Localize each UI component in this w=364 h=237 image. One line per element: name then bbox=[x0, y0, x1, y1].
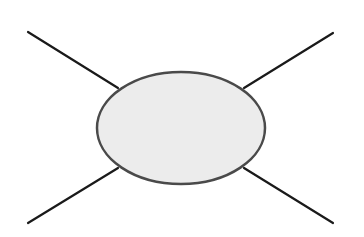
central-node-ellipse bbox=[97, 72, 265, 184]
connector-line-bottom-right bbox=[244, 168, 333, 223]
connector-line-bottom-left bbox=[28, 168, 118, 223]
spider-diagram bbox=[0, 0, 364, 237]
connector-line-top-right bbox=[244, 33, 333, 88]
connector-line-top-left bbox=[28, 32, 118, 88]
diagram-canvas bbox=[0, 0, 364, 237]
